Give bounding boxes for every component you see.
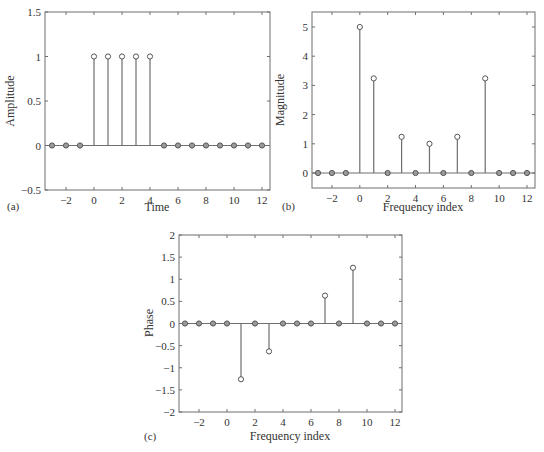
- stem-marker: [119, 54, 124, 59]
- stem-marker: [399, 134, 404, 139]
- stem-marker: [294, 321, 299, 326]
- y-tick-label: −1: [163, 362, 175, 374]
- x-tick-label: 0: [91, 194, 97, 206]
- x-tick-label: 12: [257, 194, 268, 206]
- stem-marker: [469, 170, 474, 175]
- stem-marker: [280, 321, 285, 326]
- stem-marker: [455, 134, 460, 139]
- x-tick-label: −2: [326, 192, 338, 204]
- y-tick-label: 3: [303, 79, 309, 91]
- stem-marker: [217, 143, 222, 148]
- x-axis-label: Frequency index: [383, 200, 463, 214]
- x-tick-label: −2: [60, 194, 72, 206]
- y-tick-label: 0: [36, 140, 42, 152]
- y-axis-label: Phase: [142, 309, 156, 337]
- stem-marker: [105, 54, 110, 59]
- x-tick-label: 2: [252, 416, 258, 428]
- chart-b-magnitude-spectrum: −2024681012012345Frequency indexMagnitud…: [273, 12, 535, 214]
- stem-marker: [238, 377, 243, 382]
- stem-marker: [266, 349, 271, 354]
- stem-marker: [329, 170, 334, 175]
- stem-marker: [510, 170, 515, 175]
- stem-marker: [308, 321, 313, 326]
- stem-marker: [371, 76, 376, 81]
- chart-a-amplitude-vs-time: −2024681012−0.500.511.5TimeAmplitude(a): [3, 6, 270, 214]
- y-tick-label: 4: [303, 50, 309, 62]
- x-tick-label: 10: [494, 192, 506, 204]
- stem-marker: [231, 143, 236, 148]
- stem-marker: [245, 143, 250, 148]
- stem-marker: [343, 170, 348, 175]
- x-tick-label: 6: [175, 194, 181, 206]
- panel-label: (b): [282, 200, 295, 213]
- stem-marker: [91, 54, 96, 59]
- stem-marker: [147, 54, 152, 59]
- y-axis-label: Magnitude: [273, 74, 287, 126]
- stem-marker: [392, 321, 397, 326]
- stem-marker: [175, 143, 180, 148]
- y-tick-label: −0.5: [21, 184, 41, 196]
- stem-marker: [483, 76, 488, 81]
- stem-marker: [357, 24, 362, 29]
- x-tick-label: 0: [357, 192, 363, 204]
- y-tick-label: 0.5: [27, 95, 41, 107]
- figure-canvas: −2024681012−0.500.511.5TimeAmplitude(a) …: [0, 0, 544, 452]
- axes-box: [312, 12, 535, 188]
- stem-marker: [322, 293, 327, 298]
- y-axis-label: Amplitude: [3, 75, 17, 126]
- stem-marker: [133, 54, 138, 59]
- x-tick-label: 12: [390, 416, 401, 428]
- stem-marker: [427, 141, 432, 146]
- stem-marker: [49, 143, 54, 148]
- x-axis-label: Time: [145, 200, 170, 214]
- y-tick-label: −1.5: [155, 384, 175, 396]
- x-tick-label: −2: [193, 416, 205, 428]
- y-tick-label: 1: [170, 273, 176, 285]
- stem-marker: [203, 143, 208, 148]
- stem-marker: [252, 321, 257, 326]
- stem-marker: [210, 321, 215, 326]
- x-axis-label: Frequency index: [250, 429, 330, 443]
- y-tick-label: −0.5: [155, 340, 175, 352]
- x-tick-label: 10: [362, 416, 374, 428]
- stem-marker: [378, 321, 383, 326]
- x-tick-label: 8: [469, 192, 475, 204]
- stem-marker: [336, 321, 341, 326]
- stem-marker: [77, 143, 82, 148]
- y-tick-label: 0: [303, 167, 309, 179]
- stem-marker: [259, 143, 264, 148]
- stem-marker: [189, 143, 194, 148]
- stem-marker: [497, 170, 502, 175]
- y-tick-label: 5: [303, 21, 309, 33]
- y-tick-label: 1.5: [161, 251, 175, 263]
- y-tick-label: 0: [170, 318, 176, 330]
- stem-marker: [315, 170, 320, 175]
- stem-marker: [161, 143, 166, 148]
- stem-marker: [385, 170, 390, 175]
- panel-label: (a): [7, 200, 20, 213]
- stem-marker: [524, 170, 529, 175]
- chart-c-phase-spectrum: −2024681012−2−1.5−1−0.500.511.52Frequenc…: [142, 229, 402, 443]
- stem-marker: [441, 170, 446, 175]
- x-tick-label: 2: [119, 194, 125, 206]
- y-tick-label: 1.5: [27, 6, 41, 18]
- x-tick-label: 8: [203, 194, 209, 206]
- y-tick-label: 2: [170, 229, 176, 241]
- stem-marker: [63, 143, 68, 148]
- stem-marker: [413, 170, 418, 175]
- y-tick-label: 2: [303, 109, 309, 121]
- x-tick-label: 0: [224, 416, 230, 428]
- x-tick-label: 8: [336, 416, 342, 428]
- y-tick-label: −2: [163, 406, 175, 418]
- x-tick-label: 6: [308, 416, 314, 428]
- stem-marker: [182, 321, 187, 326]
- stem-marker: [196, 321, 201, 326]
- y-tick-label: 1: [303, 138, 309, 150]
- y-tick-label: 0.5: [161, 295, 175, 307]
- x-tick-label: 4: [280, 416, 286, 428]
- stem-marker: [350, 265, 355, 270]
- stem-marker: [364, 321, 369, 326]
- stem-marker: [224, 321, 229, 326]
- x-tick-label: 10: [229, 194, 241, 206]
- panel-label: (c): [144, 430, 157, 443]
